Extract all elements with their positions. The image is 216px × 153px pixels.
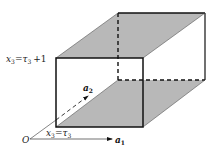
box-diagram: O a1 a2 x3=τ3+1 x3=τ3 <box>0 0 216 153</box>
a2-label: a2 <box>83 83 93 94</box>
bottom-plane-label: x3=τ3 <box>46 128 71 139</box>
origin-label: O <box>22 135 30 145</box>
top-plane-label: x3=τ3+1 <box>6 54 47 65</box>
top-face <box>56 13 205 58</box>
a1-label: a1 <box>115 135 125 146</box>
